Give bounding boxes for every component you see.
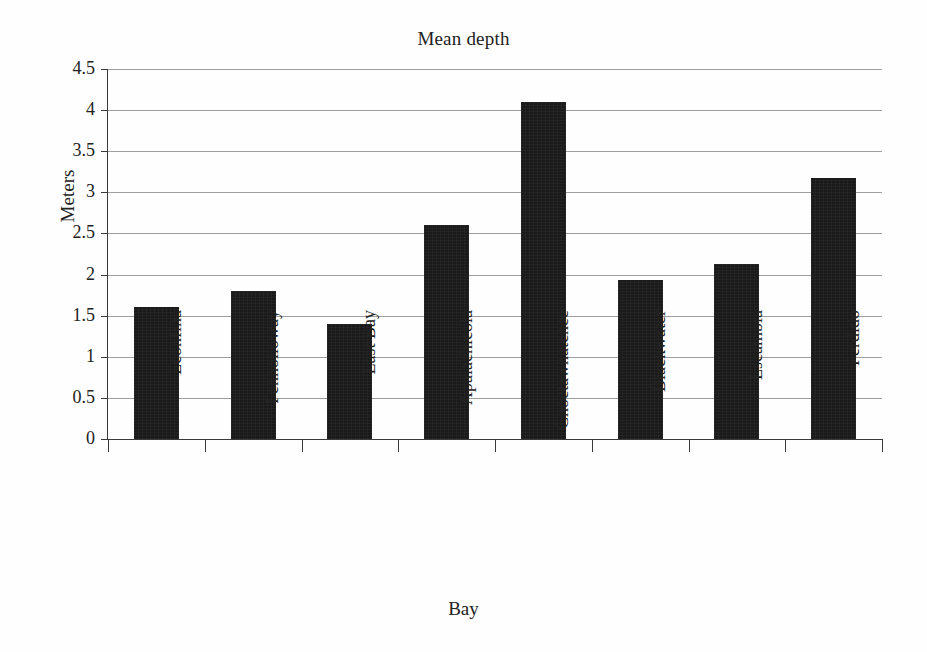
y-axis-tick — [101, 275, 108, 276]
x-axis-tick-label: Choctawhatchee — [552, 310, 572, 460]
x-axis-tick-label: Perdido — [843, 310, 863, 460]
x-axis-tick — [882, 440, 883, 452]
y-axis-tick-label: 2.5 — [33, 223, 95, 241]
x-axis-tick — [205, 440, 206, 452]
y-axis-tick-label: 4.5 — [33, 59, 95, 77]
y-axis-tick — [101, 398, 108, 399]
x-axis-tick-label: Fenholloway — [262, 310, 282, 460]
y-axis-tick — [101, 316, 108, 317]
y-axis-tick — [101, 110, 108, 111]
x-axis-tick-label: East Bay — [359, 310, 379, 460]
y-axis-tick-label: 0.5 — [33, 388, 95, 406]
y-axis-tick-label: 2 — [33, 265, 95, 283]
gridline — [108, 69, 882, 70]
bar-chart: Mean depth Meters 00.511.522.533.544.5 E… — [0, 0, 927, 652]
gridline — [108, 110, 882, 111]
gridline — [108, 151, 882, 152]
x-axis-tick — [495, 440, 496, 452]
x-axis-tick — [108, 440, 109, 452]
y-axis-tick-label: 1 — [33, 347, 95, 365]
y-axis-tick — [101, 192, 108, 193]
gridline — [108, 275, 882, 276]
gridline — [108, 233, 882, 234]
x-axis-tick — [689, 440, 690, 452]
x-axis-tick — [398, 440, 399, 452]
y-axis-tick-label: 3.5 — [33, 141, 95, 159]
x-axis-tick — [785, 440, 786, 452]
y-axis-tick-label: 1.5 — [33, 306, 95, 324]
x-axis-tick-label: Escambia — [746, 310, 766, 460]
chart-title: Mean depth — [0, 28, 927, 50]
y-axis-tick-label: 4 — [33, 100, 95, 118]
x-axis-tick-label: Blackwater — [649, 310, 669, 460]
x-axis-tick-label: Apalachicola — [456, 310, 476, 460]
x-axis-title: Bay — [0, 598, 927, 620]
y-axis-tick — [101, 357, 108, 358]
x-axis-tick-label: Econfina — [165, 310, 185, 460]
x-axis-tick — [592, 440, 593, 452]
y-axis-tick — [101, 151, 108, 152]
x-axis-tick — [302, 440, 303, 452]
y-axis-tick-label: 3 — [33, 182, 95, 200]
y-axis-tick — [101, 439, 108, 440]
y-axis-tick — [101, 69, 108, 70]
gridline — [108, 192, 882, 193]
y-axis-tick-label: 0 — [33, 429, 95, 447]
y-axis-tick — [101, 233, 108, 234]
